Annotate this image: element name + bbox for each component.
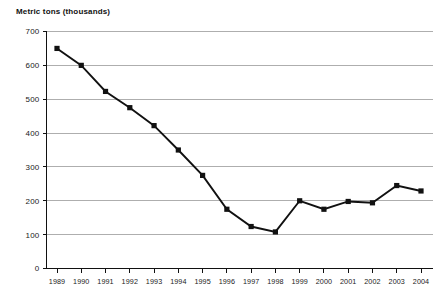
data-point-marker [79,63,84,68]
data-point-marker [54,46,59,51]
x-axis-tick-label: 2003 [389,277,405,286]
chart-container: Metric tons (thousands) 0100200300400500… [0,0,447,302]
axis-lines [47,32,434,269]
x-axis-tick-label: 2001 [340,277,356,286]
data-point-marker [321,207,326,212]
gridlines [43,32,434,269]
y-axis-tick-label: 600 [26,61,40,70]
line-chart-plot: 0100200300400500600700 19891990199119921… [0,0,447,302]
series-markers [54,46,423,235]
x-axis-tick-label: 2000 [316,277,332,286]
x-axis-tick-label: 1999 [291,277,307,286]
data-point-marker [103,89,108,94]
data-point-marker [346,199,351,204]
y-axis-tick-label: 100 [26,231,40,240]
y-axis-tick-label: 0 [35,264,40,273]
x-axis-tick-label: 1997 [243,277,259,286]
data-point-marker [224,207,229,212]
data-point-marker [297,198,302,203]
series-line [57,48,421,232]
x-axis-tick-label: 1994 [170,277,186,286]
data-series [54,46,423,235]
x-axis-tick-label: 1991 [97,277,113,286]
x-axis-tick-label: 1995 [194,277,210,286]
x-axis-tick-label: 1990 [73,277,89,286]
y-axis-tick-label: 300 [26,163,40,172]
y-axis-tick-label: 700 [26,27,40,36]
data-point-marker [127,105,132,110]
data-point-marker [273,229,278,234]
x-axis-tick-label: 1998 [267,277,283,286]
x-axis-labels: 1989199019911992199319941995199619971998… [49,277,429,286]
y-axis-tick-label: 400 [26,129,40,138]
y-axis-labels: 0100200300400500600700 [26,27,40,273]
data-point-marker [176,147,181,152]
x-axis-tick-label: 2002 [364,277,380,286]
data-point-marker [151,123,156,128]
data-point-marker [200,173,205,178]
data-point-marker [418,188,423,193]
x-axis-tick-label: 2004 [413,277,429,286]
x-axis-tick-label: 1989 [49,277,65,286]
y-axis-tick-label: 500 [26,95,40,104]
data-point-marker [394,183,399,188]
data-point-marker [370,200,375,205]
x-axis-tick-label: 1992 [122,277,138,286]
y-axis-tick-label: 200 [26,197,40,206]
data-point-marker [249,224,254,229]
x-axis-tick-label: 1996 [219,277,235,286]
x-axis-tick-label: 1993 [146,277,162,286]
